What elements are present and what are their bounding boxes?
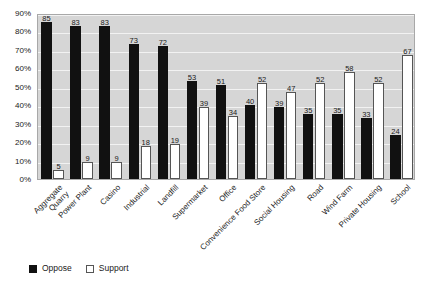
bar-group: 4052 [245, 15, 268, 179]
bar-group: 855 [41, 15, 64, 179]
x-axis-labels: Aggregate QuarryPower PlantCasinoIndustr… [37, 181, 415, 253]
chart-legend: OpposeSupport [29, 264, 129, 273]
bar-oppose: 83 [99, 26, 110, 179]
bar-oppose: 51 [216, 85, 227, 179]
legend-label: Oppose [42, 264, 72, 273]
bar-value-label: 19 [171, 136, 179, 145]
bar-oppose: 39 [274, 107, 285, 179]
bar-oppose: 85 [41, 22, 52, 179]
legend-item-oppose[interactable]: Oppose [29, 264, 72, 273]
bar-support: 47 [286, 92, 297, 179]
bar-value-label: 52 [258, 75, 266, 84]
bar-value-label: 58 [345, 64, 353, 73]
bar-value-label: 9 [115, 154, 119, 163]
bar-value-label: 67 [403, 47, 411, 56]
bar-support: 39 [199, 107, 210, 179]
bar-value-label: 73 [130, 36, 138, 45]
bar-value-label: 40 [246, 97, 254, 106]
y-axis-tick: 70% [15, 47, 31, 55]
bar-group: 7219 [158, 15, 181, 179]
bar-support: 18 [141, 146, 152, 179]
bar-support: 34 [228, 116, 239, 179]
y-axis-tick: 80% [15, 28, 31, 36]
bar-value-label: 5 [56, 162, 60, 171]
bar-support: 9 [82, 162, 93, 179]
bar-support: 52 [257, 83, 268, 179]
legend-label: Support [99, 264, 129, 273]
bar-group: 3552 [303, 15, 326, 179]
bar-group: 5339 [187, 15, 210, 179]
bars-layer: 8558398397318721953395134405239473552355… [38, 15, 414, 179]
bar-value-label: 72 [159, 38, 167, 47]
bar-value-label: 52 [374, 75, 382, 84]
bar-value-label: 18 [142, 138, 150, 147]
y-axis-tick: 30% [15, 121, 31, 129]
bar-value-label: 34 [229, 108, 237, 117]
bar-oppose: 35 [332, 114, 343, 179]
bar-value-label: 53 [188, 73, 196, 82]
bar-group: 7318 [129, 15, 152, 179]
x-axis-category-label: School [389, 183, 413, 207]
bar-value-label: 35 [304, 106, 312, 115]
bar-group: 3352 [361, 15, 384, 179]
bar-value-label: 24 [391, 127, 399, 136]
bar-group: 839 [70, 15, 93, 179]
bar-value-label: 51 [217, 77, 225, 86]
bar-support: 9 [111, 162, 122, 179]
x-axis-category-label: Industrial [122, 183, 151, 212]
x-axis-category-label: Office [217, 183, 238, 204]
bar-oppose: 53 [187, 81, 198, 179]
bar-support: 52 [373, 83, 384, 179]
y-axis-tick: 40% [15, 102, 31, 110]
bar-support: 19 [170, 144, 181, 179]
bar-oppose: 35 [303, 114, 314, 179]
bar-value-label: 9 [86, 154, 90, 163]
legend-swatch-icon [86, 265, 94, 273]
y-axis-tick: 50% [15, 84, 31, 92]
x-axis-category-label: Road [306, 183, 326, 203]
bar-value-label: 83 [101, 18, 109, 27]
bar-value-label: 83 [71, 18, 79, 27]
plot-area: 8558398397318721953395134405239473552355… [37, 14, 415, 180]
y-axis-tick: 60% [15, 65, 31, 73]
bar-group: 839 [99, 15, 122, 179]
bar-value-label: 52 [316, 75, 324, 84]
y-axis-tick: 10% [15, 158, 31, 166]
x-axis-category-label: Casino [98, 183, 122, 207]
bar-oppose: 83 [70, 26, 81, 179]
bar-value-label: 35 [333, 106, 341, 115]
bar-support: 52 [315, 83, 326, 179]
y-axis-tick: 20% [15, 139, 31, 147]
bar-value-label: 85 [42, 14, 50, 23]
y-axis-tick: 90% [15, 10, 31, 18]
bar-value-label: 33 [362, 110, 370, 119]
bar-value-label: 47 [287, 84, 295, 93]
bar-group: 2467 [390, 15, 413, 179]
y-axis: 0%10%20%30%40%50%60%70%80%90% [0, 14, 34, 180]
bar-support: 5 [53, 170, 64, 179]
y-axis-tick: 0% [19, 176, 31, 184]
bar-oppose: 33 [361, 118, 372, 179]
bar-support: 58 [344, 72, 355, 179]
bar-value-label: 39 [275, 99, 283, 108]
bar-group: 3947 [274, 15, 297, 179]
bar-group: 3558 [332, 15, 355, 179]
legend-item-support[interactable]: Support [86, 264, 129, 273]
x-axis-category-label: Landfill [156, 183, 180, 207]
bar-group: 5134 [216, 15, 239, 179]
legend-swatch-icon [29, 265, 37, 273]
bar-oppose: 24 [390, 135, 401, 179]
bar-oppose: 40 [245, 105, 256, 179]
bar-value-label: 39 [200, 99, 208, 108]
bar-oppose: 72 [158, 46, 169, 179]
bar-oppose: 73 [129, 44, 140, 179]
bar-support: 67 [402, 55, 413, 179]
bar-chart: 0%10%20%30%40%50%60%70%80%90% 8558398397… [0, 0, 429, 295]
